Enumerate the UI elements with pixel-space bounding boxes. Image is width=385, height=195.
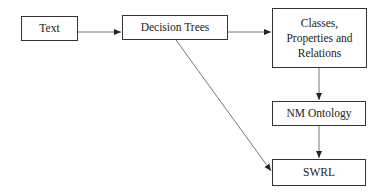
node-text-label: Text [39,21,59,36]
node-text: Text [21,16,78,41]
node-classes-label: Classes, Properties and Relations [283,16,356,61]
edge-decision-trees-to-swrl [176,40,271,171]
node-classes-properties-relations: Classes, Properties and Relations [272,8,367,68]
node-decision-trees-label: Decision Trees [141,20,210,35]
node-decision-trees: Decision Trees [122,15,228,40]
node-swrl-label: SWRL [303,165,335,180]
node-nm-ontology: NM Ontology [272,101,366,126]
node-swrl: SWRL [272,159,366,186]
node-nm-ontology-label: NM Ontology [287,106,352,121]
